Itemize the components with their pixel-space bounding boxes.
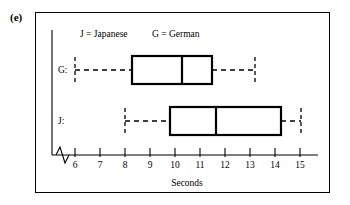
tick-label: 11 (195, 160, 204, 170)
group-label-japanese: J: (58, 116, 64, 126)
x-axis-tick-labels: 6 7 8 9 10 11 12 13 14 15 (73, 160, 305, 170)
tick-label: 6 (73, 160, 78, 170)
tick-label: 7 (98, 160, 103, 170)
tick-label: 13 (245, 160, 255, 170)
box-german (132, 56, 212, 84)
legend-japanese-key: J = Japanese (80, 29, 128, 39)
tick-label: 14 (270, 160, 280, 170)
x-axis-title: Seconds (171, 178, 203, 188)
tick-label: 12 (220, 160, 230, 170)
plot-canvas: J = Japanese G = German 6 7 8 9 10 (0, 0, 350, 205)
group-label-german: G: (58, 65, 68, 75)
x-axis-ticks (75, 148, 300, 157)
boxplot-figure: (e) J = Japanese G = German 6 7 (0, 0, 350, 205)
boxplot-german (75, 56, 255, 84)
tick-label: 10 (170, 160, 180, 170)
tick-label: 8 (123, 160, 128, 170)
tick-label: 15 (295, 160, 305, 170)
legend-german-key: G = German (152, 29, 200, 39)
box-japanese (170, 107, 281, 135)
boxplot-japanese (125, 107, 301, 135)
tick-label: 9 (148, 160, 153, 170)
